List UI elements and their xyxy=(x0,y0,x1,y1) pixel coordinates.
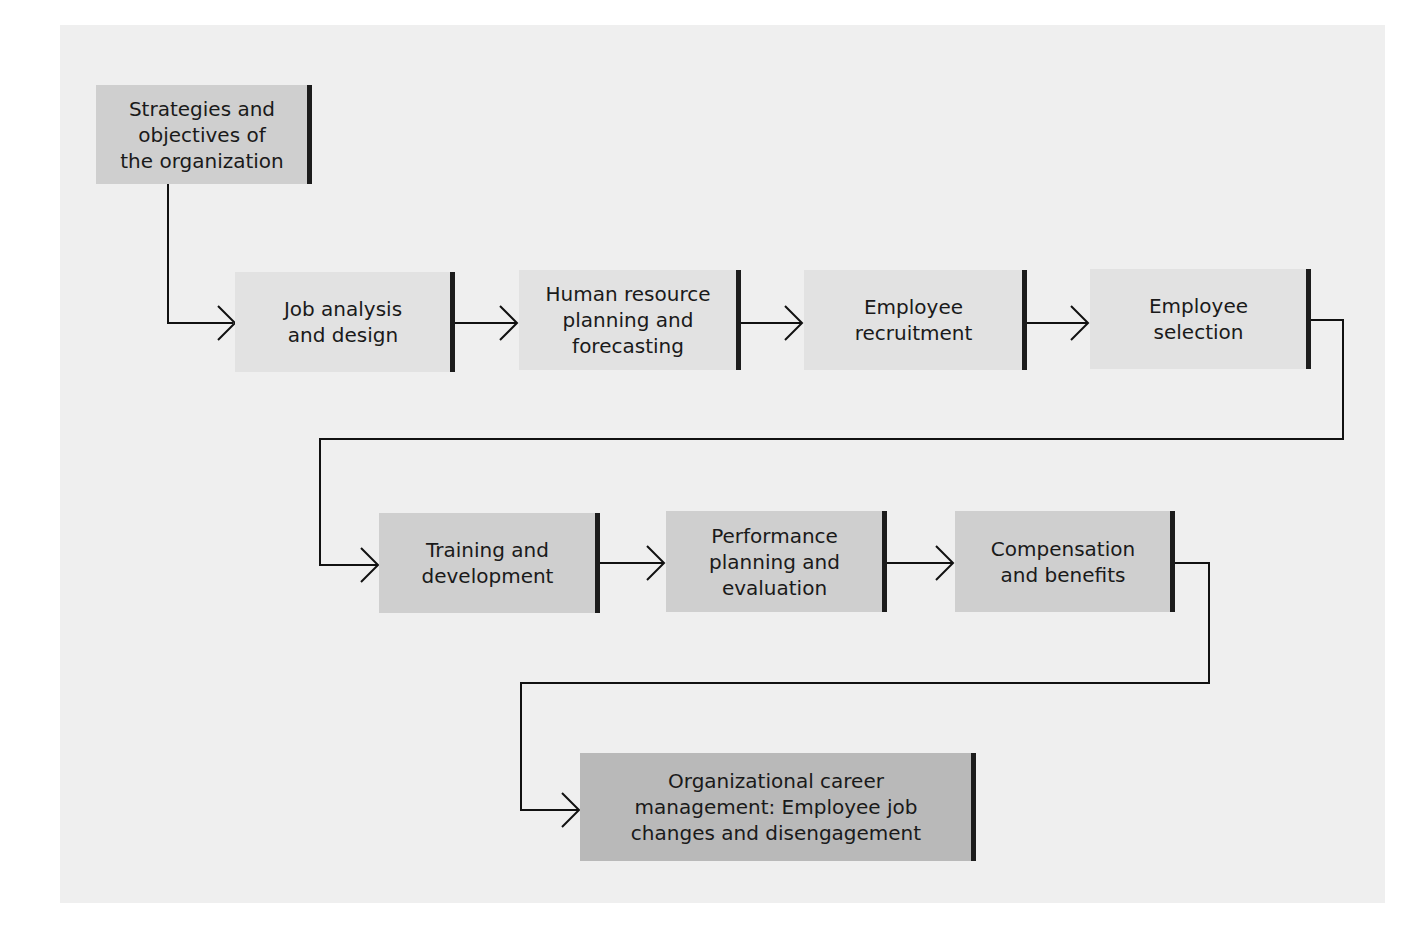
node-recruitment: Employee recruitment xyxy=(804,270,1023,370)
node-label: Performance planning and evaluation xyxy=(709,523,840,601)
node-job-analysis: Job analysis and design xyxy=(235,272,451,372)
node-hr-planning: Human resource planning and forecasting xyxy=(519,270,737,370)
connector-strategies-jobanalysis xyxy=(168,184,233,323)
node-label: Organizational career management: Employ… xyxy=(631,768,921,846)
node-strategies: Strategies and objectives of the organiz… xyxy=(96,85,308,184)
node-label: Training and development xyxy=(422,537,554,589)
node-selection: Employee selection xyxy=(1090,269,1307,369)
node-training: Training and development xyxy=(379,513,596,613)
node-label: Job analysis and design xyxy=(284,296,402,348)
node-label: Human resource planning and forecasting xyxy=(546,281,711,359)
node-performance: Performance planning and evaluation xyxy=(666,511,883,612)
node-compensation: Compensation and benefits xyxy=(955,511,1171,612)
node-label: Strategies and objectives of the organiz… xyxy=(120,96,284,174)
node-label: Employee recruitment xyxy=(855,294,973,346)
node-label: Compensation and benefits xyxy=(991,536,1135,588)
node-career: Organizational career management: Employ… xyxy=(580,753,972,861)
node-label: Employee selection xyxy=(1149,293,1248,345)
